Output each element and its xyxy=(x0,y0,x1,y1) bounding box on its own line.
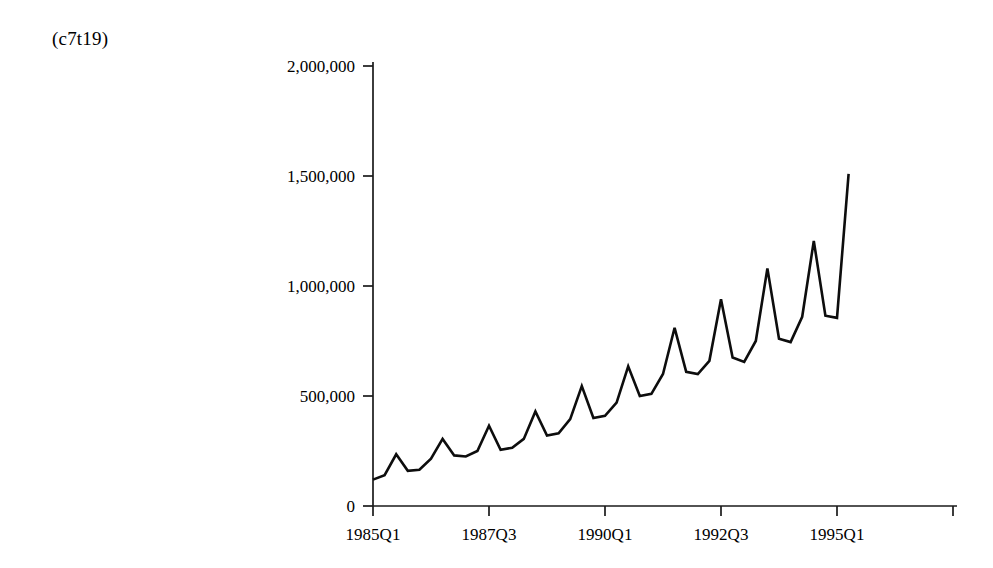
y-axis-tick-label: 2,000,000 xyxy=(287,57,355,76)
data-series-line xyxy=(373,174,849,480)
y-axis-ticks xyxy=(363,66,373,506)
x-axis-ticks xyxy=(373,506,953,516)
y-axis-tick-label: 500,000 xyxy=(300,387,355,406)
chart-canvas: 0500,0001,000,0001,500,0002,000,000 1985… xyxy=(0,0,993,568)
x-axis: 1985Q11987Q31990Q11992Q31995Q1 xyxy=(346,506,957,544)
x-axis-tick-label: 1987Q3 xyxy=(462,525,517,544)
x-axis-tick-label: 1992Q3 xyxy=(694,525,749,544)
y-axis-tick-label: 0 xyxy=(347,497,356,516)
x-axis-tick-label: 1995Q1 xyxy=(810,525,865,544)
y-axis-tick-label: 1,500,000 xyxy=(287,167,355,186)
y-axis-tick-labels: 0500,0001,000,0001,500,0002,000,000 xyxy=(287,57,355,516)
line-chart: 0500,0001,000,0001,500,0002,000,000 1985… xyxy=(0,0,993,568)
x-axis-tick-labels: 1985Q11987Q31990Q11992Q31995Q1 xyxy=(346,525,865,544)
y-axis-tick-label: 1,000,000 xyxy=(287,277,355,296)
y-axis: 0500,0001,000,0001,500,0002,000,000 xyxy=(287,57,373,516)
x-axis-tick-label: 1985Q1 xyxy=(346,525,401,544)
x-axis-tick-label: 1990Q1 xyxy=(578,525,633,544)
